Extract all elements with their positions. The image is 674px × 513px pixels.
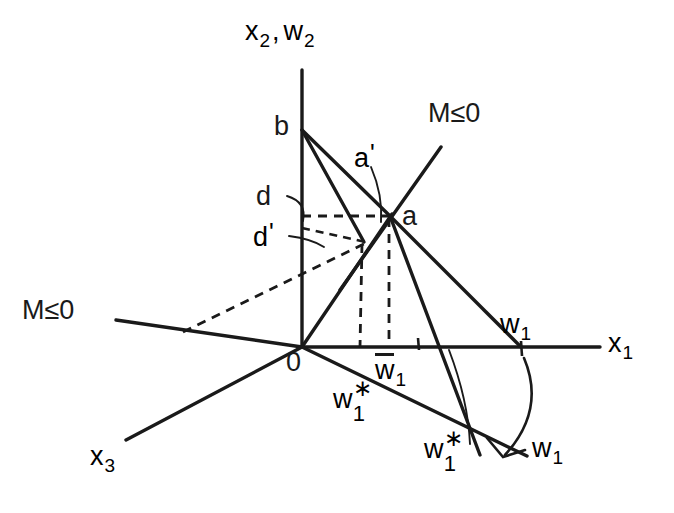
leader-arc-d-prime [289,236,324,247]
axis-label-x3-sub: 3 [105,456,116,475]
point-label-d-prime-mark: ' [269,220,274,245]
axis-label-x1-base: x [608,330,622,357]
arrow-curve-w1 [505,358,532,455]
label-w1-axis: w 1 [500,311,531,343]
point-label-d-prime-base: d [253,224,268,251]
label-w1-lower-right-base: w [532,435,552,462]
label-w1-bar-base: w [375,352,395,384]
label-w1-lower-right: w 1 [532,435,563,467]
line-a-to-w1-star-lower [390,216,480,455]
line-b-to-a [302,130,390,216]
axis-x3-line [126,347,302,440]
label-w1-bar-overbar: w [375,352,395,384]
constraint-label-left: M≤0 [22,297,74,324]
axis-label-x2-base: x [245,18,259,45]
label-w1-star-lower: w ∗ 1 [424,434,444,465]
axis-label-x3: x 3 [90,443,115,475]
dashed-left-to-a-prime [183,243,366,332]
tick-x1-axis [418,338,419,350]
axis-label-w2-sub: 2 [304,31,315,50]
label-w1-star-lower-base: w [424,434,444,464]
label-w1-star-left-sup: ∗ [353,375,372,402]
label-w1-bar-sub: 1 [396,370,407,389]
axis-label-x1: x 1 [608,330,633,362]
axis-label-x2-w2: x 2 , w 2 [245,18,315,50]
point-label-a-prime: a ' [354,145,375,172]
figure-container: x 2 , w 2 b M≤0 a ' a d d ' M≤0 0 w 1 x … [0,0,674,513]
label-w1-star-left-sub: 1 [353,401,365,427]
label-w1-axis-base: w [500,311,520,338]
label-w1-bar: w 1 [375,352,406,389]
point-label-a-prime-mark: ' [370,141,375,166]
axis-label-x3-base: x [90,443,104,470]
diagram-canvas [0,0,674,513]
label-w1-axis-sub: 1 [521,324,532,343]
point-label-b: b [274,113,289,140]
label-w1-star-lower-sub: 1 [444,451,456,477]
axis-m-left-line [116,320,302,347]
axis-label-separator: , [272,18,280,45]
point-label-d: d [256,183,271,210]
line-origin-to-a [302,214,392,347]
constraint-label-upper-right: M≤0 [428,100,480,127]
axis-label-x1-sub: 1 [623,343,634,362]
point-label-d-prime: d ' [253,224,274,251]
overbar-stroke [375,353,394,356]
label-w1-lower-right-sub: 1 [553,448,564,467]
point-label-a-prime-base: a [354,145,369,172]
origin-label: 0 [286,349,301,376]
point-label-a: a [402,203,417,230]
axis-label-w2-base: w [284,18,304,45]
leader-arc-a-prime [371,167,381,222]
label-w1-star-lower-sup: ∗ [444,425,463,452]
axis-label-x2-sub: 2 [260,31,271,50]
label-w1-star-left: w ∗ 1 [333,384,353,415]
label-w1-star-left-base: w [333,384,353,414]
